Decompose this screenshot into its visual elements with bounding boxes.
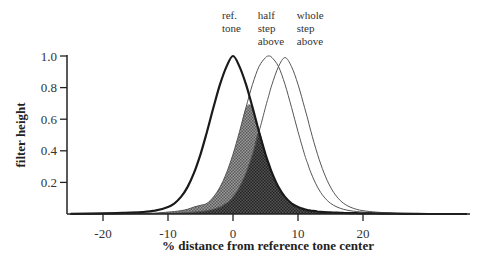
y-tick-label: 1.0 — [41, 49, 57, 64]
y-tick-label: 0.6 — [41, 112, 58, 127]
x-tick-label: -20 — [94, 226, 111, 241]
annotation-label: wholestepabove — [297, 9, 324, 47]
overlap-ref-whole-region — [71, 132, 468, 214]
annotation-label: ref.tone — [222, 9, 241, 34]
y-tick-label: 0.8 — [41, 80, 57, 95]
filter-chart: 0.20.40.60.81.0 -20-1001020 filter heigh… — [0, 0, 499, 265]
annotation-label: halfstepabove — [258, 9, 284, 47]
shaded-regions — [71, 104, 468, 214]
x-axis-ticks: -20-1001020 — [94, 214, 369, 241]
y-tick-label: 0.2 — [41, 175, 57, 190]
curve-annotations: ref.tonehalfstepabovewholestepabove — [222, 9, 324, 47]
x-axis-title: % distance from reference tone center — [162, 238, 374, 253]
y-tick-label: 0.4 — [41, 143, 58, 158]
y-axis-ticks: 0.20.40.60.81.0 — [41, 49, 67, 190]
y-axis-title: filter height — [13, 102, 28, 168]
